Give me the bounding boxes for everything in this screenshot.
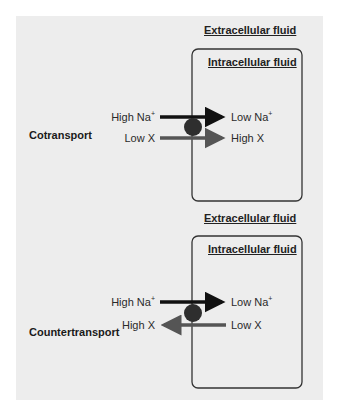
extracellular-label-2: Extracellular fluid — [204, 212, 296, 224]
solute-outside-label-1: Low X — [100, 132, 155, 144]
intracellular-label-2: Intracellular fluid — [208, 243, 297, 255]
solute-outside-label-2: High X — [100, 319, 155, 331]
sodium-outside-label-2: High Na+ — [100, 296, 155, 308]
sodium-inside-label-1: Low Na+ — [231, 111, 272, 123]
cell-membrane-cotransport — [192, 49, 302, 201]
cell-membrane-countertransport — [192, 236, 302, 388]
sodium-inside-label-2: Low Na+ — [231, 296, 272, 308]
carrier-protein-countertransport — [184, 304, 202, 322]
extracellular-label-1: Extracellular fluid — [204, 24, 296, 36]
solute-inside-label-2: Low X — [231, 319, 262, 331]
carrier-protein-cotransport — [184, 118, 202, 136]
intracellular-label-1: Intracellular fluid — [208, 56, 297, 68]
sodium-outside-label-1: High Na+ — [100, 111, 155, 123]
solute-inside-label-1: High X — [231, 132, 264, 144]
cotransport-title: Cotransport — [29, 129, 92, 141]
